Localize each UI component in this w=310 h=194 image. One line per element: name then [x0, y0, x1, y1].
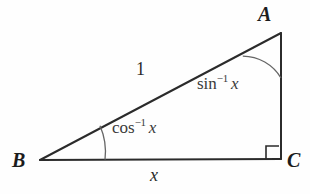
arcsin-argument: x: [231, 74, 239, 93]
vertex-label-c: C: [287, 150, 300, 170]
arccos-exponent: −1: [135, 116, 146, 128]
arcsin-function-name: sin: [197, 74, 217, 93]
angle-label-arcsin: sin−1x: [197, 73, 239, 92]
hypotenuse-length-label: 1: [136, 60, 145, 78]
triangle-figure: A B C 1 x sin−1x cos−1x: [0, 0, 310, 194]
base-line: [40, 159, 281, 160]
angle-arc-at-a: [243, 56, 281, 78]
angle-arc-at-b: [100, 126, 105, 160]
vertex-label-b: B: [12, 150, 25, 170]
arccos-argument: x: [149, 118, 157, 137]
right-angle-marker: [266, 146, 279, 159]
base-length-label: x: [150, 166, 158, 184]
vertex-label-a: A: [258, 4, 271, 24]
arccos-function-name: cos: [112, 118, 135, 137]
angle-label-arccos: cos−1x: [112, 117, 156, 136]
arcsin-exponent: −1: [217, 72, 228, 84]
hypotenuse-line: [40, 33, 281, 160]
